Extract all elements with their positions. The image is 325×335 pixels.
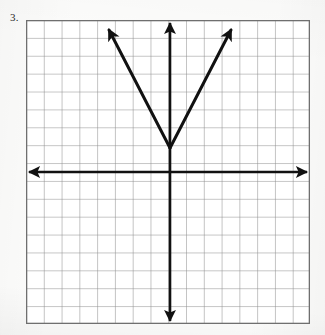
problem-number-label: 3. bbox=[10, 11, 19, 23]
worksheet-page: 3. bbox=[0, 0, 325, 335]
coordinate-plane-svg bbox=[26, 20, 310, 324]
graph-figure bbox=[26, 20, 310, 324]
